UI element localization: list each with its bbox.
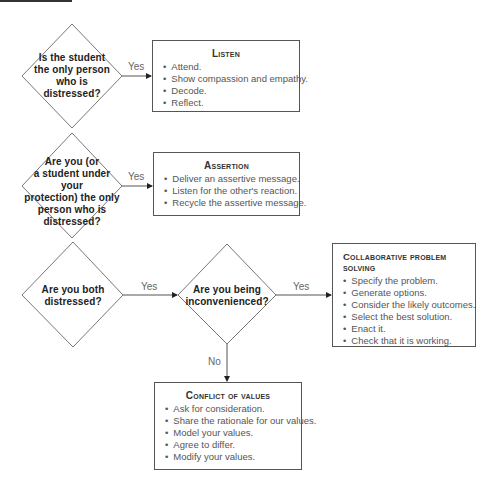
decision-3-text: Are you both distressed? xyxy=(33,284,113,308)
list-item: Specify the problem. xyxy=(343,275,475,287)
listen-box: Listen Attend. Show compassion and empat… xyxy=(152,40,300,112)
list-item: Listen for the other's reaction. xyxy=(164,185,299,197)
text-line: inconvenienced? xyxy=(182,296,272,308)
edge-label-yes-2: Yes xyxy=(128,171,144,182)
edge-label-yes-1: Yes xyxy=(128,61,144,72)
text-line: person who is xyxy=(22,204,122,216)
list-item: Model your values. xyxy=(165,427,301,439)
text-line: distressed? xyxy=(33,296,113,308)
list-item: Generate options. xyxy=(343,287,475,299)
list-item: Recycle the assertive message. xyxy=(164,197,299,209)
box-title: Collaborative problem solving xyxy=(333,251,475,273)
flowchart: Is the student the only person who is di… xyxy=(0,0,496,484)
collaborative-problem-solving-box: Collaborative problem solving Specify th… xyxy=(332,243,476,347)
list-item: Deliver an assertive message. xyxy=(164,173,299,185)
list-item: Enact it. xyxy=(343,323,475,335)
text-line: who is xyxy=(32,76,112,88)
decision-1-text: Is the student the only person who is di… xyxy=(32,52,112,100)
list-item: Show compassion and empathy. xyxy=(163,73,299,85)
box-title: Listen xyxy=(153,48,299,59)
list-item: Attend. xyxy=(163,61,299,73)
list-item: Consider the likely outcomes. xyxy=(343,299,475,311)
text-line: a student under your xyxy=(22,168,122,192)
conflict-of-values-box: Conflict of values Ask for consideration… xyxy=(154,382,302,470)
list-item: Agree to differ. xyxy=(165,439,301,451)
edge-label-yes-4: Yes xyxy=(293,281,309,292)
box-title: Conflict of values xyxy=(155,390,301,401)
text-line: distressed? xyxy=(32,88,112,100)
list-item: Check that it is working. xyxy=(343,335,475,347)
edge-label-no: No xyxy=(208,356,221,367)
list-item: Share the rationale for our values. xyxy=(165,415,301,427)
text-line: Is the student xyxy=(32,52,112,64)
text-line: Are you being xyxy=(182,284,272,296)
box-title: Assertion xyxy=(154,160,299,171)
decision-2-text: Are you (or a student under your protect… xyxy=(22,156,122,228)
list-item: Modify your values. xyxy=(165,451,301,463)
text-line: Are you (or xyxy=(22,156,122,168)
text-line: protection) the only xyxy=(22,192,122,204)
text-line: distressed? xyxy=(22,216,122,228)
text-line: Are you both xyxy=(33,284,113,296)
edge-label-yes-3: Yes xyxy=(141,281,157,292)
list-item: Reflect. xyxy=(163,97,299,109)
list-item: Select the best solution. xyxy=(343,311,475,323)
list-item: Decode. xyxy=(163,85,299,97)
text-line: the only person xyxy=(32,64,112,76)
assertion-box: Assertion Deliver an assertive message. … xyxy=(153,152,300,216)
decision-4-text: Are you being inconvenienced? xyxy=(182,284,272,308)
list-item: Ask for consideration. xyxy=(165,403,301,415)
